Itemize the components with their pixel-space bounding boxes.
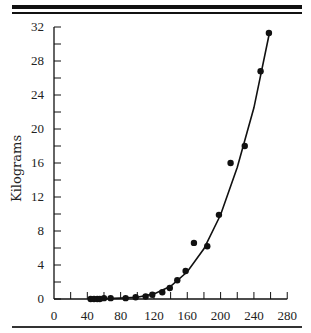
data-point xyxy=(204,243,210,249)
data-point xyxy=(216,212,222,218)
x-tick-label: 280 xyxy=(277,308,297,323)
y-tick-label: 16 xyxy=(31,155,45,170)
y-tick-label: 24 xyxy=(31,87,45,102)
x-tick-label: 120 xyxy=(144,308,164,323)
y-tick-label: 32 xyxy=(31,19,44,34)
y-tick-label: 28 xyxy=(31,53,44,68)
data-point xyxy=(132,294,138,300)
data-point xyxy=(167,285,173,291)
x-tick-label: 160 xyxy=(178,308,198,323)
data-point xyxy=(142,293,148,299)
y-tick-label: 4 xyxy=(38,257,45,272)
x-tick-label: 40 xyxy=(81,308,94,323)
data-point xyxy=(227,160,233,166)
y-tick-label: 20 xyxy=(31,121,44,136)
y-tick-label: 12 xyxy=(31,189,44,204)
data-point xyxy=(266,30,272,36)
x-tick-label: 200 xyxy=(211,308,231,323)
x-tick-label: 0 xyxy=(51,308,58,323)
y-tick-label: 8 xyxy=(38,223,45,238)
data-point xyxy=(174,277,180,283)
data-point xyxy=(107,295,113,301)
data-point xyxy=(242,143,248,149)
data-point xyxy=(257,68,263,74)
data-point xyxy=(149,292,155,298)
y-tick-label: 0 xyxy=(38,291,45,306)
x-tick-label: 80 xyxy=(114,308,127,323)
data-point xyxy=(122,295,128,301)
x-tick-label: 240 xyxy=(244,308,264,323)
fitted-curve xyxy=(91,36,269,300)
scatter-chart: 04812162024283204080120160200240280 xyxy=(0,0,311,333)
data-point xyxy=(191,240,197,246)
data-point xyxy=(159,289,165,295)
data-point xyxy=(101,295,107,301)
data-point xyxy=(182,268,188,274)
